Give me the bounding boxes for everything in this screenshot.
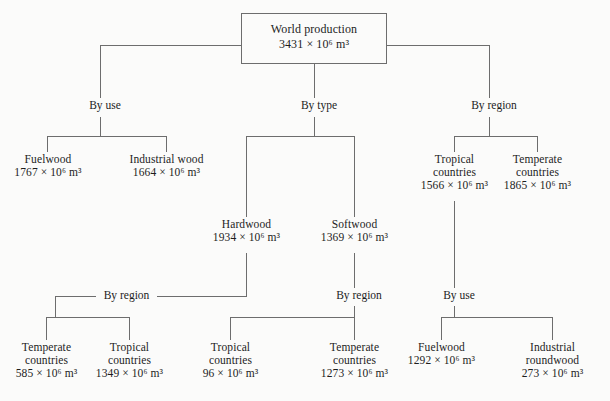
edge-label-hardwood-by-region: By region <box>96 289 157 301</box>
node-tropical-fuelwood: Fuelwood 1292 × 10⁶ m³ <box>388 341 495 367</box>
edge-label-softwood-by-region: By region <box>323 289 395 301</box>
node-value: 96 × 10⁶ m³ <box>178 367 283 380</box>
node-hardwood-tropical-countries: Tropical countries 1349 × 10⁶ m³ <box>75 341 184 380</box>
node-value: 3431 × 10⁶ m³ <box>242 37 386 52</box>
node-value: 1369 × 10⁶ m³ <box>301 231 408 244</box>
node-hardwood: Hardwood 1934 × 10⁶ m³ <box>193 218 300 244</box>
node-label: Fuelwood <box>0 153 96 166</box>
node-value: 1865 × 10⁶ m³ <box>483 179 592 192</box>
node-value: 1349 × 10⁶ m³ <box>75 367 184 380</box>
node-world-production: World production 3431 × 10⁶ m³ <box>241 13 387 64</box>
node-label-line2: roundwood <box>497 354 608 367</box>
node-label: Fuelwood <box>388 341 495 354</box>
node-value: 1767 × 10⁶ m³ <box>0 166 96 179</box>
edge-label-by-use-top: By use <box>75 99 135 111</box>
node-label: World production <box>242 22 386 37</box>
edge-label-tropical-by-use: By use <box>429 289 489 301</box>
node-tropical-industrial-roundwood: Industrial roundwood 273 × 10⁶ m³ <box>497 341 608 380</box>
node-value: 273 × 10⁶ m³ <box>497 367 608 380</box>
node-value: 1273 × 10⁶ m³ <box>300 367 409 380</box>
node-label: Tropical <box>75 341 184 354</box>
node-label: Tropical <box>178 341 283 354</box>
node-industrial-wood-top: Industrial wood 1664 × 10⁶ m³ <box>110 153 223 179</box>
node-fuelwood-top: Fuelwood 1767 × 10⁶ m³ <box>0 153 96 179</box>
node-softwood-tropical-countries: Tropical countries 96 × 10⁶ m³ <box>178 341 283 380</box>
node-value: 1664 × 10⁶ m³ <box>110 166 223 179</box>
node-label-line2: countries <box>483 166 592 179</box>
node-label-line2: countries <box>75 354 184 367</box>
node-label: Softwood <box>301 218 408 231</box>
node-label: Industrial wood <box>110 153 223 166</box>
node-value: 1934 × 10⁶ m³ <box>193 231 300 244</box>
node-temperate-countries-top: Temperate countries 1865 × 10⁶ m³ <box>483 153 592 192</box>
edge-label-by-type-top: By type <box>289 99 349 111</box>
node-label-line2: countries <box>178 354 283 367</box>
node-value: 1292 × 10⁶ m³ <box>388 354 495 367</box>
node-label: Temperate <box>483 153 592 166</box>
node-label: Industrial <box>497 341 608 354</box>
edge-label-by-region-top: By region <box>458 99 530 111</box>
node-label: Hardwood <box>193 218 300 231</box>
tree-diagram: World production 3431 × 10⁶ m³ By use By… <box>0 0 610 401</box>
node-softwood: Softwood 1369 × 10⁶ m³ <box>301 218 408 244</box>
